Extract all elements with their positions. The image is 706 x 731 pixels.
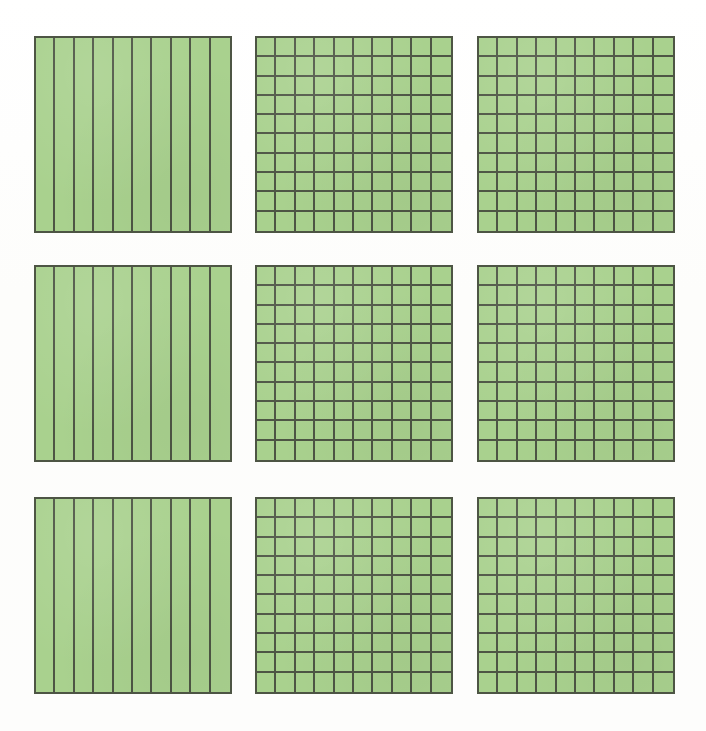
grid-cell xyxy=(518,441,537,460)
grid-cell xyxy=(315,402,334,421)
grid-cell xyxy=(595,325,614,344)
grid-cell xyxy=(576,115,595,134)
grid-cell xyxy=(315,96,334,115)
grid-cell xyxy=(595,77,614,96)
grid-cell xyxy=(354,38,373,57)
grid-cell xyxy=(276,267,295,286)
grid-cell xyxy=(557,421,576,440)
grid-cell xyxy=(576,154,595,173)
grid-cell xyxy=(172,267,191,460)
grid-cell xyxy=(211,38,230,231)
grid-cell xyxy=(354,673,373,692)
grid-cell xyxy=(257,96,276,115)
grid-cell xyxy=(498,212,517,231)
grid-cell xyxy=(557,441,576,460)
grid-cell xyxy=(257,673,276,692)
grid-cell xyxy=(412,538,431,557)
grid-cell xyxy=(634,57,653,76)
grid-cell xyxy=(498,192,517,211)
grid-cell xyxy=(354,134,373,153)
grid-cell xyxy=(615,192,634,211)
grid-cell xyxy=(576,57,595,76)
grid-cell xyxy=(335,306,354,325)
grid-cell xyxy=(432,595,451,614)
grid-cell xyxy=(393,538,412,557)
grid-cell xyxy=(296,286,315,305)
grid-cell xyxy=(335,286,354,305)
grid-cell xyxy=(537,96,556,115)
grid-cell xyxy=(335,499,354,518)
grid-cell xyxy=(354,212,373,231)
grid-cell xyxy=(615,96,634,115)
grid-cell xyxy=(354,383,373,402)
grid-cell xyxy=(354,421,373,440)
grid-cell xyxy=(595,499,614,518)
grid-cell xyxy=(257,402,276,421)
grid-cell xyxy=(595,421,614,440)
grid-cell xyxy=(257,634,276,653)
grid-cell xyxy=(557,653,576,672)
grid-cell xyxy=(296,421,315,440)
grid-cell xyxy=(257,77,276,96)
grid-cell xyxy=(276,134,295,153)
grid-cell xyxy=(518,154,537,173)
grid-cell xyxy=(576,383,595,402)
grid-cell xyxy=(393,653,412,672)
grid-cell xyxy=(257,267,276,286)
grid-cell xyxy=(595,518,614,537)
grid-cell xyxy=(634,653,653,672)
grid-cell xyxy=(354,325,373,344)
grid-cell xyxy=(373,673,392,692)
grid-cell xyxy=(373,653,392,672)
grid-cell xyxy=(498,57,517,76)
grid-cell xyxy=(94,499,113,692)
grid-cell xyxy=(479,134,498,153)
grid-cell xyxy=(537,383,556,402)
grid-cell xyxy=(373,192,392,211)
grid-cell xyxy=(412,286,431,305)
grid-cell xyxy=(257,615,276,634)
grid-cell xyxy=(615,325,634,344)
grid-cell xyxy=(615,383,634,402)
grid-cell xyxy=(498,634,517,653)
grid-cell xyxy=(654,192,673,211)
grid-cell xyxy=(412,421,431,440)
grid-cell xyxy=(595,57,614,76)
grid-cell xyxy=(296,173,315,192)
grid-cell xyxy=(654,77,673,96)
grid-cell xyxy=(276,173,295,192)
grid-cell xyxy=(518,538,537,557)
grid-cell xyxy=(518,212,537,231)
grid-cell xyxy=(412,325,431,344)
grid-cell xyxy=(296,383,315,402)
grid-cell xyxy=(296,325,315,344)
grid-cell xyxy=(412,306,431,325)
grid-cell xyxy=(432,57,451,76)
grid-cell xyxy=(315,557,334,576)
grid-cell xyxy=(557,134,576,153)
grid-cell xyxy=(654,615,673,634)
grid-cell xyxy=(354,363,373,382)
grid-cell xyxy=(257,306,276,325)
grid-cell xyxy=(354,173,373,192)
grid-cell xyxy=(276,363,295,382)
grid-cell xyxy=(498,286,517,305)
grid-cell xyxy=(654,634,673,653)
grid-cell xyxy=(412,402,431,421)
grid-cell xyxy=(537,653,556,672)
grid-cell xyxy=(634,154,653,173)
grid-cell xyxy=(634,576,653,595)
grid-cell xyxy=(537,212,556,231)
grid-cell xyxy=(393,421,412,440)
grid-cell xyxy=(276,192,295,211)
grid-cell xyxy=(257,383,276,402)
grid-cell xyxy=(537,363,556,382)
grid-cell xyxy=(296,344,315,363)
grid-cell xyxy=(479,267,498,286)
grid-cell xyxy=(634,383,653,402)
grid-cell xyxy=(595,154,614,173)
grid-cell xyxy=(315,344,334,363)
grid-cell xyxy=(335,212,354,231)
grid-cell xyxy=(654,441,673,460)
grid-cell xyxy=(576,518,595,537)
